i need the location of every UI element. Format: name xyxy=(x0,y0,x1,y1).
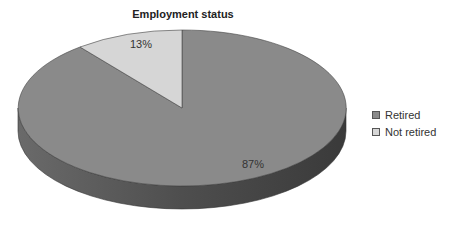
pie-chart: 13% 87% xyxy=(0,0,366,236)
legend-label: Retired xyxy=(385,109,420,121)
legend-swatch-not-retired xyxy=(372,128,380,136)
legend: Retired Not retired xyxy=(372,106,436,140)
legend-swatch-retired xyxy=(372,111,380,119)
legend-item-retired[interactable]: Retired xyxy=(372,106,436,123)
legend-label: Not retired xyxy=(385,126,436,138)
slice-label-retired: 87% xyxy=(242,158,264,170)
slice-label-not-retired: 13% xyxy=(130,38,152,50)
legend-item-not-retired[interactable]: Not retired xyxy=(372,123,436,140)
